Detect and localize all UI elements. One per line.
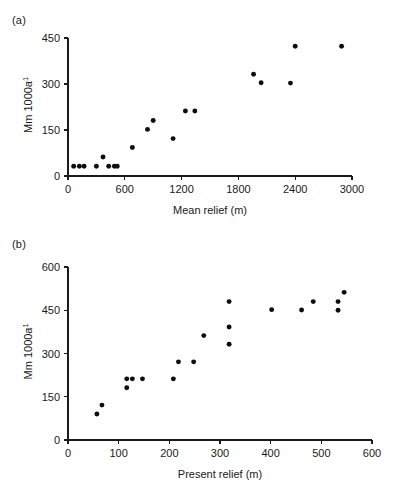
data-point	[339, 44, 344, 49]
data-point	[201, 333, 206, 338]
data-point	[115, 164, 120, 169]
y-tick-label: 450	[42, 32, 60, 44]
data-point	[101, 155, 106, 160]
y-axis-title-exponent: -1	[21, 77, 30, 84]
panel-a-plot: 015030045006001200180024003000Mean relie…	[0, 0, 397, 232]
data-point	[124, 385, 129, 390]
y-axis-title-exponent: -1	[21, 323, 30, 330]
data-point	[171, 376, 176, 381]
y-tick-label: 0	[54, 434, 60, 446]
data-point	[259, 80, 264, 85]
data-point	[336, 299, 341, 304]
data-point	[124, 376, 129, 381]
data-point	[227, 342, 232, 347]
scatter-panel-b: (b) 01503004506000100200300400500600Pres…	[0, 226, 397, 494]
x-tick-label: 3000	[340, 183, 364, 195]
data-point	[336, 308, 341, 313]
y-axis-title-group: Mm 1000a-1	[21, 77, 35, 133]
y-tick-label: 600	[42, 261, 60, 273]
y-tick-label: 0	[54, 170, 60, 182]
x-tick-label: 0	[65, 183, 71, 195]
x-tick-label: 400	[261, 447, 279, 459]
data-point	[94, 412, 99, 417]
x-tick-label: 100	[109, 447, 127, 459]
x-tick-label: 300	[211, 447, 229, 459]
x-tick-label: 200	[160, 447, 178, 459]
y-tick-label: 300	[42, 78, 60, 90]
data-point	[171, 136, 176, 141]
y-axis-title-group: Mm 1000a-1	[21, 323, 35, 379]
data-point	[227, 325, 232, 330]
data-point	[71, 164, 76, 169]
data-point	[77, 164, 82, 169]
y-axis-title: Mm 1000a	[22, 80, 34, 133]
scatter-panel-a: (a) 015030045006001200180024003000Mean r…	[0, 0, 397, 232]
data-point	[100, 403, 105, 408]
x-axis-title: Mean relief (m)	[173, 204, 247, 216]
x-tick-label: 600	[116, 183, 134, 195]
data-point	[145, 127, 150, 132]
data-point	[106, 164, 111, 169]
data-point	[82, 164, 87, 169]
data-point	[251, 72, 256, 77]
figure-container: (a) 015030045006001200180024003000Mean r…	[0, 0, 397, 494]
data-point	[288, 81, 293, 86]
x-tick-label: 600	[363, 447, 381, 459]
y-tick-label: 300	[42, 348, 60, 360]
data-point	[227, 299, 232, 304]
data-point	[130, 145, 135, 150]
data-point	[311, 299, 316, 304]
data-point	[140, 376, 145, 381]
x-tick-label: 500	[312, 447, 330, 459]
data-point	[151, 118, 156, 123]
y-tick-label: 150	[42, 124, 60, 136]
x-tick-label: 2400	[283, 183, 307, 195]
y-tick-label: 150	[42, 391, 60, 403]
x-axis-title: Present relief (m)	[178, 468, 262, 480]
data-point	[192, 109, 197, 114]
data-point	[183, 109, 188, 114]
data-point	[269, 307, 274, 312]
data-point	[342, 290, 347, 295]
x-tick-label: 1800	[226, 183, 250, 195]
y-axis-title: Mm 1000a	[22, 327, 34, 380]
data-point	[176, 359, 181, 364]
data-point	[293, 44, 298, 49]
panel-b-plot: 01503004506000100200300400500600Present …	[0, 226, 397, 494]
data-point	[191, 359, 196, 364]
x-tick-label: 0	[65, 447, 71, 459]
data-point	[130, 376, 135, 381]
data-point	[94, 164, 99, 169]
y-tick-label: 450	[42, 304, 60, 316]
data-point	[299, 308, 304, 313]
x-tick-label: 1200	[169, 183, 193, 195]
